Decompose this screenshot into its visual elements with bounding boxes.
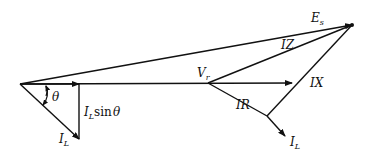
label-il-right-sub: L	[295, 142, 300, 151]
ix-phasor	[267, 25, 352, 116]
label-il-left-sub: L	[64, 139, 69, 148]
label-vr: Vr	[197, 67, 210, 82]
il-right-phasor	[267, 116, 285, 136]
theta-arc-top	[46, 86, 47, 96]
label-es-main: E	[311, 11, 320, 25]
iz-phasor	[208, 25, 352, 83]
label-sin: sin	[94, 105, 112, 119]
label-es-sub: s	[320, 18, 324, 27]
label-theta: θ	[52, 91, 59, 103]
label-il-sin-theta: ILsin θ	[84, 106, 120, 121]
label-iz: IZ	[281, 39, 294, 51]
label-il-right: IL	[290, 136, 300, 151]
label-vr-main: V	[197, 66, 206, 80]
label-ir: IR	[236, 99, 250, 111]
es-tip-dot	[350, 23, 354, 27]
label-il-left: IL	[59, 133, 69, 148]
label-ix: IX	[310, 77, 323, 89]
phasor-diagram: Es IZ Vr IX IR IL θ ILsin θ IL	[0, 0, 374, 162]
label-vr-sub: r	[206, 73, 210, 82]
es-phasor	[20, 25, 352, 84]
label-sin-angle: θ	[113, 105, 120, 119]
il-left-phasor	[20, 84, 79, 139]
label-es: Es	[311, 12, 324, 27]
